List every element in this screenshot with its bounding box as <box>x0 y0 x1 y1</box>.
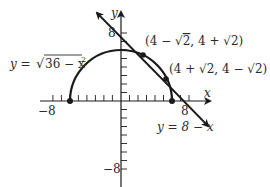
x-tick-label-left: −8 <box>38 104 56 118</box>
y-tick-label-top: 8 <box>108 26 116 40</box>
x-tick-label-right: 8 <box>181 104 189 118</box>
svg-text:(4 − √2, 4 + √2): (4 − √2, 4 + √2) <box>145 34 243 48</box>
graph-canvas: x y −8 8 8 −8 y = √ 36 − x 2 y = 8 − x (… <box>0 0 270 187</box>
intersection-point-1 <box>140 52 146 58</box>
intersection-label-1: (4 − √2, 4 + √2) <box>145 34 243 48</box>
svg-text:(4 + √2, 4 − √2): (4 + √2, 4 − √2) <box>169 62 267 76</box>
endpoint-right <box>169 98 175 104</box>
line-equation: y = 8 − x <box>156 120 214 134</box>
svg-text:36 − x: 36 − x <box>45 57 85 71</box>
y-axis-label: y <box>110 6 118 20</box>
semicircle-equation: y = √ 36 − x 2 <box>9 55 86 71</box>
x-axis-label: x <box>204 86 211 100</box>
svg-text:2: 2 <box>81 55 86 64</box>
line-curve-upper <box>97 13 170 87</box>
endpoint-left <box>67 98 73 104</box>
y-tick-label-bottom: −8 <box>103 162 121 176</box>
svg-text:√: √ <box>36 56 45 71</box>
intersection-label-2: (4 + √2, 4 − √2) <box>169 62 267 76</box>
intersection-point-2 <box>163 76 169 82</box>
svg-text:y =: y = <box>9 57 31 71</box>
